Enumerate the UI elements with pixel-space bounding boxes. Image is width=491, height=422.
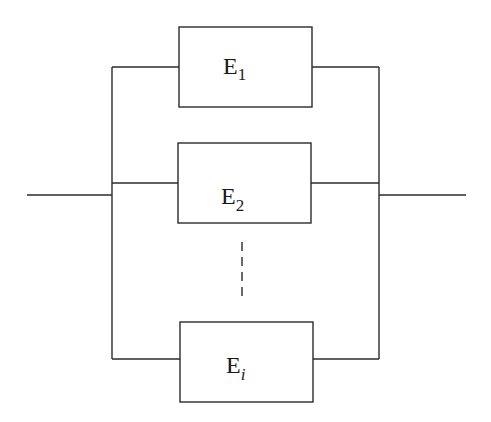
element-e1: E1 [179,27,312,107]
element-e2-box [178,143,311,223]
element-ei: Ei [180,322,313,402]
element-e2: E2 [178,143,311,223]
parallel-system-diagram: E1 E2 Ei [0,0,491,422]
element-ei-box [180,322,313,402]
